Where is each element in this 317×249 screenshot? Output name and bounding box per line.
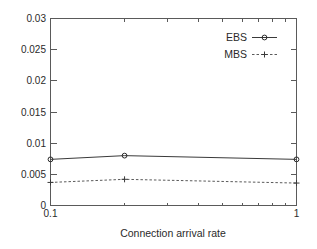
x-tick-label-0.1: 0.1	[44, 208, 58, 219]
x-axis-ticks	[51, 19, 297, 206]
series-line-ebs	[51, 156, 297, 160]
x-tick-label-1: 1	[294, 208, 300, 219]
y-tick-label-0.025: 0.025	[21, 44, 46, 55]
legend-label-ebs: EBS	[226, 31, 247, 43]
y-tick-label-0.015: 0.015	[21, 107, 46, 118]
chart-plot-area: 0.03 0.025 0.02 0.015 0.01 0.005 0	[0, 0, 317, 249]
y-tick-label-0.02: 0.02	[27, 75, 47, 86]
legend-label-mbs: MBS	[224, 48, 247, 60]
y-tick-label-0.005: 0.005	[21, 169, 46, 180]
x-axis-title: Connection arrival rate	[120, 227, 226, 239]
y-tick-label-0.03: 0.03	[27, 13, 47, 24]
series-line-mbs	[51, 179, 297, 183]
legend-sample-mbs	[252, 52, 277, 58]
y-axis-ticks	[51, 19, 297, 206]
y-tick-label-0.01: 0.01	[27, 138, 47, 149]
chart-figure: 0.03 0.025 0.02 0.015 0.01 0.005 0	[0, 0, 317, 249]
plot-frame	[51, 19, 297, 206]
legend-sample-ebs	[252, 35, 277, 40]
chart-legend: EBS MBS	[224, 31, 277, 60]
series-markers-mbs	[48, 176, 300, 186]
